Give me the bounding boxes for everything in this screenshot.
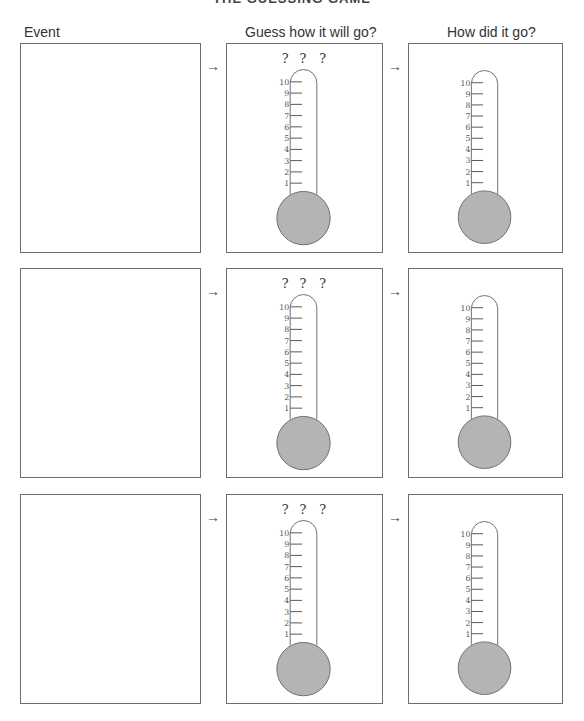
arrow-right-icon: → xyxy=(206,509,220,525)
thermometer-icon: ???10987654321 xyxy=(227,495,382,703)
svg-text:5: 5 xyxy=(465,359,470,368)
svg-text:1: 1 xyxy=(284,404,289,413)
thermometer-icon: 10987654321 xyxy=(409,495,562,703)
arrow-right-icon: → xyxy=(206,58,220,74)
question-mark: ? xyxy=(319,276,326,291)
svg-text:3: 3 xyxy=(465,381,470,390)
question-mark: ? xyxy=(282,502,289,517)
svg-text:10: 10 xyxy=(460,79,470,88)
thermometer-icon: ???10987654321 xyxy=(227,269,382,477)
svg-text:5: 5 xyxy=(284,359,289,368)
svg-text:3: 3 xyxy=(284,382,289,391)
svg-text:8: 8 xyxy=(284,100,289,109)
svg-text:9: 9 xyxy=(465,315,470,324)
svg-text:6: 6 xyxy=(284,348,289,357)
svg-text:8: 8 xyxy=(465,552,470,561)
svg-text:5: 5 xyxy=(465,585,470,594)
svg-text:9: 9 xyxy=(284,540,289,549)
page-title: THE GUESSING GAME xyxy=(0,0,584,6)
thermometer-icon: ???10987654321 xyxy=(227,44,382,252)
svg-text:7: 7 xyxy=(284,112,289,121)
svg-text:8: 8 xyxy=(465,101,470,110)
svg-text:8: 8 xyxy=(284,325,289,334)
svg-text:1: 1 xyxy=(465,179,470,188)
svg-text:7: 7 xyxy=(284,563,289,572)
guess-thermometer-box[interactable]: ???10987654321 xyxy=(226,494,383,704)
svg-text:10: 10 xyxy=(279,303,289,312)
svg-text:7: 7 xyxy=(284,337,289,346)
svg-text:3: 3 xyxy=(284,608,289,617)
header-event: Event xyxy=(24,24,60,40)
svg-text:7: 7 xyxy=(465,563,470,572)
svg-text:9: 9 xyxy=(465,541,470,550)
question-mark: ? xyxy=(300,502,307,517)
question-mark: ? xyxy=(319,502,326,517)
header-guess: Guess how it will go? xyxy=(245,24,377,40)
arrow-right-icon: → xyxy=(206,283,220,299)
svg-text:2: 2 xyxy=(465,619,470,628)
svg-text:4: 4 xyxy=(284,145,289,154)
svg-text:2: 2 xyxy=(284,619,289,628)
svg-text:5: 5 xyxy=(465,134,470,143)
svg-text:2: 2 xyxy=(284,393,289,402)
svg-text:6: 6 xyxy=(465,574,470,583)
svg-text:6: 6 xyxy=(465,348,470,357)
svg-text:9: 9 xyxy=(284,314,289,323)
svg-text:2: 2 xyxy=(465,393,470,402)
svg-text:6: 6 xyxy=(284,574,289,583)
svg-text:10: 10 xyxy=(460,304,470,313)
svg-text:3: 3 xyxy=(465,156,470,165)
svg-text:5: 5 xyxy=(284,585,289,594)
guess-thermometer-box[interactable]: ???10987654321 xyxy=(226,268,383,478)
guess-thermometer-box[interactable]: ???10987654321 xyxy=(226,43,383,253)
svg-text:3: 3 xyxy=(284,157,289,166)
svg-text:5: 5 xyxy=(284,134,289,143)
svg-text:7: 7 xyxy=(465,337,470,346)
thermometer-icon: 10987654321 xyxy=(409,44,562,252)
svg-text:10: 10 xyxy=(460,530,470,539)
question-mark: ? xyxy=(282,51,289,66)
svg-text:2: 2 xyxy=(465,168,470,177)
result-thermometer-box[interactable]: 10987654321 xyxy=(408,43,563,253)
svg-text:10: 10 xyxy=(279,529,289,538)
svg-text:6: 6 xyxy=(284,123,289,132)
svg-text:9: 9 xyxy=(465,90,470,99)
header-result: How did it go? xyxy=(447,24,536,40)
arrow-right-icon: → xyxy=(388,509,402,525)
thermometer-icon: 10987654321 xyxy=(409,269,562,477)
svg-text:1: 1 xyxy=(284,630,289,639)
svg-text:4: 4 xyxy=(284,370,289,379)
svg-text:10: 10 xyxy=(279,78,289,87)
result-thermometer-box[interactable]: 10987654321 xyxy=(408,494,563,704)
svg-text:8: 8 xyxy=(465,326,470,335)
question-mark: ? xyxy=(319,51,326,66)
event-box[interactable] xyxy=(20,43,201,253)
event-box[interactable] xyxy=(20,494,201,704)
svg-text:4: 4 xyxy=(465,370,470,379)
svg-text:1: 1 xyxy=(465,630,470,639)
svg-text:9: 9 xyxy=(284,89,289,98)
question-mark: ? xyxy=(300,276,307,291)
question-mark: ? xyxy=(300,51,307,66)
svg-text:6: 6 xyxy=(465,123,470,132)
arrow-right-icon: → xyxy=(388,283,402,299)
svg-text:2: 2 xyxy=(284,168,289,177)
event-box[interactable] xyxy=(20,268,201,478)
arrow-right-icon: → xyxy=(388,58,402,74)
svg-text:7: 7 xyxy=(465,112,470,121)
svg-text:1: 1 xyxy=(465,404,470,413)
result-thermometer-box[interactable]: 10987654321 xyxy=(408,268,563,478)
svg-text:4: 4 xyxy=(465,145,470,154)
svg-text:3: 3 xyxy=(465,607,470,616)
question-mark: ? xyxy=(282,276,289,291)
svg-text:8: 8 xyxy=(284,551,289,560)
svg-text:4: 4 xyxy=(465,596,470,605)
svg-text:1: 1 xyxy=(284,179,289,188)
svg-text:4: 4 xyxy=(284,596,289,605)
